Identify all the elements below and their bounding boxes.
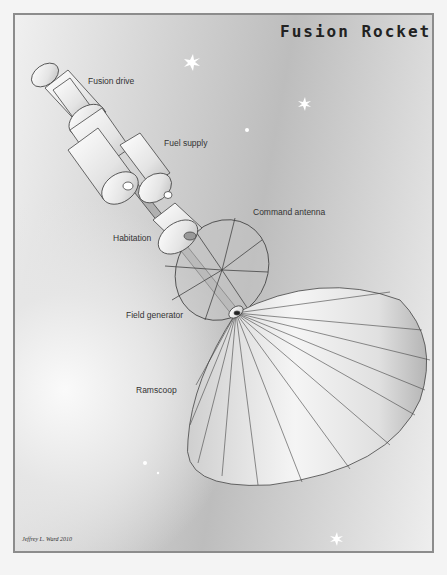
label-fuel-supply: Fuel supply xyxy=(164,138,207,148)
fusion-rocket-diagram xyxy=(0,0,447,575)
diagram-title: Fusion Rocket xyxy=(280,22,431,41)
label-command-antenna: Command antenna xyxy=(253,207,325,217)
label-ramscoop: Ramscoop xyxy=(136,385,177,395)
label-fusion-drive: Fusion drive xyxy=(88,76,134,86)
label-field-generator: Field generator xyxy=(126,310,183,320)
artist-credit: Jeffrey L. Ward 2010 xyxy=(22,536,72,542)
label-habitation: Habitation xyxy=(113,233,151,243)
